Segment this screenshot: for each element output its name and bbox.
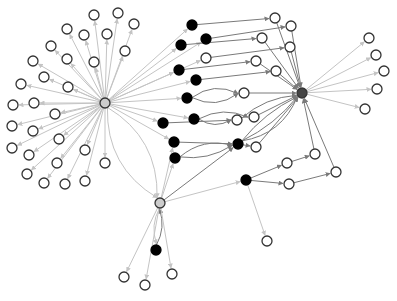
node-black-B2[interactable] xyxy=(176,40,186,50)
node-black-B4[interactable] xyxy=(174,65,184,75)
node-white-L4[interactable] xyxy=(62,24,72,34)
edge-M13-H2 xyxy=(303,99,314,149)
node-gray-hub-H1[interactable] xyxy=(100,98,110,108)
node-white-L15[interactable] xyxy=(8,100,18,110)
edge-H1-L8 xyxy=(71,64,102,100)
node-white-L2[interactable] xyxy=(113,8,123,18)
node-white-S4[interactable] xyxy=(262,236,272,246)
node-white-M5[interactable] xyxy=(201,53,211,63)
node-white-L3[interactable] xyxy=(129,19,139,29)
node-white-L13[interactable] xyxy=(16,79,26,89)
node-white-M12[interactable] xyxy=(282,158,292,168)
node-white-M15[interactable] xyxy=(331,167,341,177)
edge-M14-M15 xyxy=(294,173,330,182)
node-black-B5[interactable] xyxy=(191,75,201,85)
node-white-M10[interactable] xyxy=(249,112,259,122)
edge-H1-B1 xyxy=(109,29,188,100)
node-white-L25[interactable] xyxy=(100,158,110,168)
node-white-M3[interactable] xyxy=(257,33,267,43)
node-white-L29[interactable] xyxy=(80,176,90,186)
edge-B5-M7 xyxy=(201,72,270,80)
node-white-L12[interactable] xyxy=(39,72,49,82)
node-layer xyxy=(7,8,389,290)
node-white-R5[interactable] xyxy=(360,104,370,114)
node-white-L11[interactable] xyxy=(89,57,99,67)
edge-H2-R5 xyxy=(307,94,359,107)
node-white-M6[interactable] xyxy=(251,56,261,66)
network-graph xyxy=(0,0,397,301)
node-white-M8[interactable] xyxy=(239,88,249,98)
node-white-S1[interactable] xyxy=(119,272,129,282)
node-white-L23[interactable] xyxy=(80,145,90,155)
edge-B3-M2 xyxy=(211,27,285,38)
node-white-L5[interactable] xyxy=(79,30,89,40)
node-white-L19[interactable] xyxy=(28,126,38,136)
node-black-B12[interactable] xyxy=(241,175,251,185)
node-white-M2[interactable] xyxy=(286,21,296,31)
node-black-B8[interactable] xyxy=(189,114,199,124)
node-black-B1[interactable] xyxy=(187,20,197,30)
node-white-L18[interactable] xyxy=(7,121,17,131)
node-white-S3[interactable] xyxy=(167,269,177,279)
edge-H2-R4 xyxy=(307,89,371,92)
edge-H2-R3 xyxy=(307,73,378,92)
node-gray-hub-H3[interactable] xyxy=(155,198,165,208)
node-white-L1[interactable] xyxy=(89,10,99,20)
node-white-R4[interactable] xyxy=(372,84,382,94)
edge-H1-H3 xyxy=(107,107,157,197)
edge-B12-M12 xyxy=(251,165,282,178)
node-white-L24[interactable] xyxy=(52,158,62,168)
edge-B11-M11 xyxy=(243,145,250,146)
node-white-L7[interactable] xyxy=(46,41,56,51)
node-black-B13[interactable] xyxy=(151,245,161,255)
edge-H1-B2 xyxy=(109,49,176,100)
node-white-M13[interactable] xyxy=(310,149,320,159)
edge-H3-S3 xyxy=(161,208,171,268)
node-black-B10[interactable] xyxy=(170,153,180,163)
node-black-B7[interactable] xyxy=(158,118,168,128)
node-black-B11[interactable] xyxy=(233,139,243,149)
edge-H1-H3 xyxy=(107,107,157,197)
edge-H1-L26 xyxy=(31,106,101,170)
node-white-L27[interactable] xyxy=(39,178,49,188)
edge-B12-S4 xyxy=(248,185,265,236)
node-white-M9[interactable] xyxy=(232,115,242,125)
node-white-R1[interactable] xyxy=(364,33,374,43)
node-white-L10[interactable] xyxy=(28,56,38,66)
edge-B6-M8 xyxy=(192,94,238,103)
edge-B7-M9 xyxy=(168,120,231,123)
node-white-L6[interactable] xyxy=(102,29,112,39)
node-white-L22[interactable] xyxy=(24,150,34,160)
edge-B6-M8 xyxy=(192,88,238,97)
node-white-L17[interactable] xyxy=(50,109,60,119)
node-white-M14[interactable] xyxy=(284,179,294,189)
node-white-M1[interactable] xyxy=(270,13,280,23)
node-white-L21[interactable] xyxy=(7,143,17,153)
node-white-M7[interactable] xyxy=(271,66,281,76)
node-white-L9[interactable] xyxy=(120,46,130,56)
node-white-R3[interactable] xyxy=(379,66,389,76)
node-black-B9[interactable] xyxy=(169,137,179,147)
edge-B13-H3 xyxy=(156,209,162,245)
node-dark-hub-H2[interactable] xyxy=(297,88,307,98)
node-white-L26[interactable] xyxy=(22,169,32,179)
edge-H1-L9 xyxy=(107,57,123,99)
node-white-R2[interactable] xyxy=(371,50,381,60)
node-white-M11[interactable] xyxy=(251,142,261,152)
node-white-M4[interactable] xyxy=(285,42,295,52)
edge-M7-H2 xyxy=(280,74,298,89)
node-white-L20[interactable] xyxy=(54,134,64,144)
edge-B12-M14 xyxy=(251,180,283,183)
edge-H1-B8 xyxy=(110,104,188,118)
edge-M12-M13 xyxy=(292,156,310,162)
node-white-L28[interactable] xyxy=(60,179,70,189)
node-white-L16[interactable] xyxy=(29,98,39,108)
node-white-L14[interactable] xyxy=(63,82,73,92)
node-white-S2[interactable] xyxy=(140,280,150,290)
edge-B2-M3 xyxy=(186,39,256,45)
edge-B1-M1 xyxy=(197,19,269,25)
node-black-B6[interactable] xyxy=(182,93,192,103)
edge-B8-M9 xyxy=(199,119,231,124)
node-black-B3[interactable] xyxy=(201,34,211,44)
node-white-L8[interactable] xyxy=(62,54,72,64)
